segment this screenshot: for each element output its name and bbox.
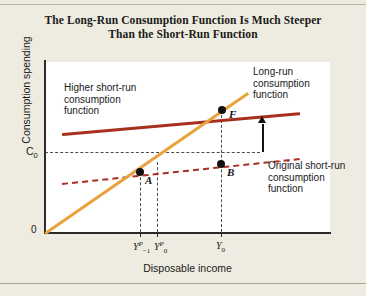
higher-short-run-line-1: Higher short-run bbox=[64, 82, 136, 94]
point-f-marker bbox=[218, 106, 226, 114]
top-divider bbox=[0, 4, 366, 5]
c0-axis-label: C0 bbox=[26, 145, 38, 160]
long-run-line-3: function bbox=[253, 89, 310, 101]
original-short-run-line-2: consumption bbox=[268, 172, 345, 184]
xtick-yp-minus1-sub: −1 bbox=[143, 247, 150, 255]
original-short-run-annotation: Original short-run consumption function bbox=[268, 160, 345, 195]
higher-short-run-line-2: consumption bbox=[64, 94, 136, 106]
xtick-label-y0: Y0 bbox=[216, 240, 225, 254]
xtick-mark-y0 bbox=[221, 232, 222, 237]
point-a-label: A bbox=[145, 174, 152, 186]
guide-yp-minus1 bbox=[140, 172, 141, 232]
point-b-marker bbox=[217, 160, 225, 168]
point-b-label: B bbox=[227, 166, 234, 178]
long-run-annotation: Long-run consumption function bbox=[253, 66, 310, 101]
xtick-yp-0-sub: 0 bbox=[164, 247, 168, 255]
x-axis bbox=[44, 232, 331, 234]
original-short-run-line-3: function bbox=[268, 183, 345, 195]
x-axis-label: Disposable income bbox=[45, 262, 330, 274]
point-f-label: F bbox=[229, 108, 236, 120]
figure-title-line-1: The Long-Run Consumption Function Is Muc… bbox=[0, 14, 366, 28]
c0-horizontal-guide bbox=[45, 152, 260, 153]
origin-label: 0 bbox=[31, 224, 37, 235]
c0-subscript: 0 bbox=[34, 151, 38, 160]
guide-y0 bbox=[221, 110, 222, 232]
xtick-label-yp-minus1: YP−1 bbox=[133, 240, 150, 255]
point-a-marker bbox=[136, 168, 144, 176]
y-axis bbox=[44, 60, 46, 234]
long-run-line-1: Long-run bbox=[253, 66, 310, 78]
figure-title: The Long-Run Consumption Function Is Muc… bbox=[0, 14, 366, 41]
figure-title-line-2: Than the Short-Run Function bbox=[0, 28, 366, 42]
higher-short-run-line-3: function bbox=[64, 105, 136, 117]
xtick-label-yp-0: YP0 bbox=[154, 240, 167, 255]
figure-page: The Long-Run Consumption Function Is Muc… bbox=[0, 0, 366, 296]
shift-arrow-shaft bbox=[262, 124, 264, 152]
bottom-divider bbox=[0, 283, 366, 284]
higher-short-run-annotation: Higher short-run consumption function bbox=[64, 82, 136, 117]
xtick-y0-sub: 0 bbox=[222, 246, 226, 254]
original-short-run-line-1: Original short-run bbox=[268, 160, 345, 172]
xtick-mark-yp-minus1 bbox=[140, 232, 141, 237]
long-run-line-2: consumption bbox=[253, 78, 310, 90]
xtick-mark-yp-0 bbox=[157, 232, 158, 237]
c0-base: C bbox=[26, 145, 34, 157]
shift-arrow-head bbox=[258, 116, 266, 123]
